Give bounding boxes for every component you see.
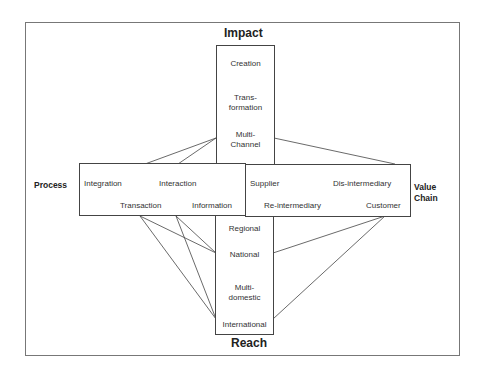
- line-customer-national: [273, 216, 385, 253]
- impact-item-creation: Creation: [216, 59, 275, 69]
- reach-item-regional: Regional: [215, 224, 274, 234]
- axis-label-value-chain: Value Chain: [414, 182, 438, 204]
- axis-label-impact: Impact: [224, 26, 263, 40]
- value-chain-item-disintermediary: Dis-intermediary: [333, 179, 391, 189]
- axis-label-value-chain-line1: Value: [414, 182, 438, 193]
- process-item-integration: Integration: [84, 179, 122, 189]
- axis-label-process: Process: [34, 180, 67, 190]
- impact-item-multichannel: Multi- Channel: [216, 130, 275, 150]
- value-chain-item-customer: Customer: [366, 201, 401, 211]
- line-customer-international: [273, 216, 385, 319]
- process-item-interaction: Interaction: [159, 179, 196, 189]
- value-chain-item-supplier: Supplier: [250, 179, 279, 189]
- process-item-information: Information: [192, 201, 232, 211]
- line-multichannel-disintermediary: [274, 138, 395, 164]
- process-item-transaction: Transaction: [120, 201, 162, 211]
- line-information-international: [176, 216, 216, 319]
- value-chain-item-reintermediary: Re-intermediary: [264, 201, 321, 211]
- line-information-national: [176, 216, 216, 253]
- reach-item-national: National: [215, 250, 274, 260]
- line-integration-multichannel: [145, 138, 216, 164]
- line-transaction-international: [140, 216, 216, 319]
- reach-item-international: International: [215, 320, 274, 330]
- axis-label-reach: Reach: [231, 336, 267, 350]
- line-interaction-multichannel: [178, 138, 216, 164]
- reach-item-multidomestic: Multi- domestic: [215, 283, 274, 303]
- impact-item-transformation: Trans- formation: [216, 93, 275, 113]
- axis-label-value-chain-line2: Chain: [414, 193, 438, 204]
